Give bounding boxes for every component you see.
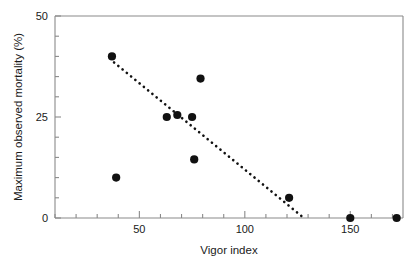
y-tick-label: 50 <box>36 10 48 22</box>
y-axis-title: Maximum observed mortality (%) <box>12 33 24 201</box>
data-point <box>108 52 116 60</box>
data-point <box>163 113 171 121</box>
y-axis-ticks <box>55 16 61 218</box>
data-point <box>393 214 401 222</box>
y-tick-label: 25 <box>36 111 48 123</box>
x-tick-label: 100 <box>236 223 254 235</box>
y-tick-label: 0 <box>42 212 48 224</box>
data-point <box>346 214 354 222</box>
data-point-group <box>108 52 401 222</box>
data-point <box>196 75 204 83</box>
data-point <box>188 113 196 121</box>
x-tick-label: 50 <box>133 223 145 235</box>
x-axis-ticks <box>55 211 392 218</box>
x-axis-tick-labels: 50100150 <box>133 223 359 235</box>
scatter-plot: 02550 50100150 Vigor index Maximum obser… <box>0 0 416 264</box>
data-point <box>112 174 120 182</box>
figure-container: 02550 50100150 Vigor index Maximum obser… <box>0 0 416 264</box>
x-axis-title: Vigor index <box>200 244 258 256</box>
y-axis-tick-labels: 02550 <box>36 10 48 224</box>
data-point <box>190 155 198 163</box>
data-point <box>173 111 181 119</box>
data-point <box>285 194 293 202</box>
x-tick-label: 150 <box>341 223 359 235</box>
axes-frame <box>55 16 403 218</box>
trend-line <box>114 62 304 218</box>
